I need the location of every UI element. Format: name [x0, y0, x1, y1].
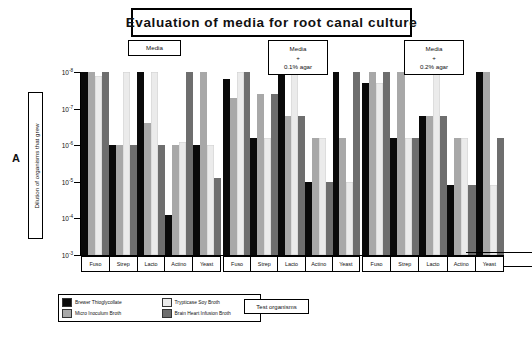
bar-fill: [476, 72, 483, 255]
bar-strep-s1: [257, 72, 264, 255]
bar-actino-s2: [179, 72, 186, 255]
x-tick-label-actino: Actino: [305, 256, 332, 272]
panel-header-line2: +: [296, 53, 300, 62]
bar-fill: [312, 138, 319, 255]
bar-yeast-s3: [497, 72, 504, 255]
x-tick-label-strep: Strep: [109, 256, 137, 272]
bar-lacto-s0: [137, 72, 144, 255]
bar-fuso-s3: [102, 72, 109, 255]
x-axis-title-box: Test organisms: [244, 299, 309, 314]
bar-fill: [369, 72, 376, 255]
bar-group-fuso: [223, 72, 250, 255]
bar-fill: [123, 72, 130, 255]
x-tick-label-lacto: Lacto: [277, 256, 304, 272]
bar-fill: [397, 72, 404, 255]
bar-fill: [440, 116, 447, 255]
bar-yeast-s1: [339, 72, 346, 255]
bar-group-actino: [305, 72, 332, 255]
bar-fill: [207, 145, 214, 255]
bar-fuso-s2: [376, 72, 383, 255]
margin-rule-secondary: [504, 266, 532, 267]
bar-strep-s0: [109, 72, 116, 255]
figure-letter: A: [12, 152, 20, 164]
bar-lacto-s0: [419, 72, 426, 255]
bar-actino-s1: [312, 72, 319, 255]
bar-fill: [405, 138, 412, 255]
bar-fill: [179, 142, 186, 255]
bar-lacto-s3: [158, 72, 165, 255]
x-tick-label-yeast: Yeast: [475, 256, 504, 272]
bar-fill: [362, 83, 369, 255]
y-tick-label: 10-8: [62, 68, 73, 76]
legend-swatch: [162, 298, 172, 307]
bar-yeast-s2: [346, 72, 353, 255]
legend-item: Micro Inoculum Broth: [62, 308, 158, 319]
bar-fill: [447, 185, 454, 255]
panel-header-media-02-agar: Media + 0.2% agar: [404, 40, 464, 75]
legend: Brewer ThioglycollateTrypticase Soy Brot…: [58, 294, 261, 322]
y-tick: [74, 109, 81, 110]
bar-group-actino: [165, 72, 193, 255]
panel-header-media-01-agar: Media + 0.1% agar: [268, 40, 328, 75]
bar-fill: [230, 98, 237, 255]
bar-fill: [412, 138, 419, 255]
bar-lacto-s1: [144, 72, 151, 255]
legend-label: Trypticase Soy Broth: [175, 300, 220, 305]
bar-group-strep: [109, 72, 137, 255]
y-tick: [74, 255, 81, 256]
bar-fill: [172, 145, 179, 255]
bar-fill: [468, 185, 475, 255]
legend-label: Brewer Thioglycollate: [75, 300, 122, 305]
bar-fill: [158, 145, 165, 255]
bar-lacto-s0: [278, 72, 285, 255]
bar-fill: [419, 116, 426, 255]
bar-fuso-s0: [81, 72, 88, 255]
x-tick-labels-panel-1: FusoStrepLactoActinoYeast: [81, 256, 221, 272]
bar-strep-s3: [271, 72, 278, 255]
bar-fill: [116, 145, 123, 255]
bar-yeast-s2: [490, 72, 497, 255]
bar-fill: [81, 72, 88, 255]
bar-strep-s0: [390, 72, 397, 255]
bar-lacto-s2: [151, 72, 158, 255]
bar-group-yeast: [333, 72, 360, 255]
bar-fill: [298, 116, 305, 255]
bar-lacto-s1: [285, 72, 292, 255]
panel-media-01-agar: [223, 72, 360, 255]
x-tick-label-actino: Actino: [164, 256, 192, 272]
bar-fill: [186, 72, 193, 255]
bar-fill: [497, 138, 504, 255]
bar-fill: [109, 145, 116, 255]
bar-actino-s1: [172, 72, 179, 255]
bar-fill: [326, 182, 333, 255]
bar-fuso-s1: [230, 72, 237, 255]
y-tick: [74, 218, 81, 219]
y-tick-label: 10-4: [62, 214, 73, 222]
bar-fill: [88, 72, 95, 255]
bar-yeast-s1: [200, 72, 207, 255]
bar-lacto-s3: [298, 72, 305, 255]
legend-swatch: [62, 309, 72, 318]
y-tick-label: 10-3: [62, 251, 73, 259]
bar-fill: [151, 72, 158, 255]
y-tick-label: 10-7: [62, 105, 73, 113]
bar-actino-s0: [447, 72, 454, 255]
bar-actino-s2: [319, 72, 326, 255]
bar-actino-s0: [305, 72, 312, 255]
bar-actino-s1: [454, 72, 461, 255]
panel-header-media: Media: [128, 40, 181, 56]
bar-actino-s3: [186, 72, 193, 255]
panel-media-02-agar: [362, 72, 504, 255]
x-axis-title: Test organisms: [256, 304, 296, 310]
bar-fill: [237, 72, 244, 255]
bar-lacto-s2: [433, 72, 440, 255]
x-tick-label-lacto: Lacto: [418, 256, 446, 272]
bar-group-lacto: [419, 72, 447, 255]
bar-yeast-s3: [214, 72, 221, 255]
panel-header-line1: Media: [146, 43, 163, 52]
y-tick: [74, 72, 81, 73]
bar-fuso-s2: [237, 72, 244, 255]
y-tick-label: 10-6: [62, 141, 73, 149]
legend-label: Brain Heart Infusion Broth: [175, 311, 231, 316]
bar-group-strep: [250, 72, 277, 255]
